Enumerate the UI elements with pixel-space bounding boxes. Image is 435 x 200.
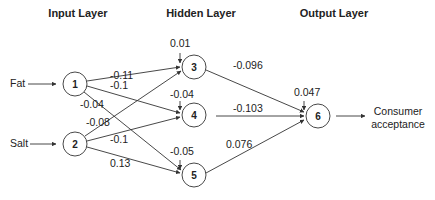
bias-4: -0.04 xyxy=(170,88,194,100)
weight-5-6: 0.076 xyxy=(226,138,252,150)
neural-network-diagram: Input Layer Hidden Layer Output Layer Fa… xyxy=(0,0,435,200)
bias-6: 0.047 xyxy=(294,86,320,98)
output-layer-title: Output Layer xyxy=(300,7,369,19)
weight-1-4: -0.1 xyxy=(110,79,128,91)
input-layer-title: Input Layer xyxy=(48,7,108,19)
node-4-label: 4 xyxy=(191,110,197,121)
bias-5: -0.05 xyxy=(170,145,194,157)
weight-2-4: -0.1 xyxy=(110,133,128,145)
output-label-line2: acceptance xyxy=(371,118,425,130)
node-3: 3 xyxy=(182,55,206,79)
node-2-label: 2 xyxy=(72,139,78,150)
input-fat-label: Fat xyxy=(10,77,25,89)
input-salt-label: Salt xyxy=(10,137,28,149)
node-5: 5 xyxy=(182,163,206,187)
hidden-layer-title: Hidden Layer xyxy=(166,7,236,19)
node-5-label: 5 xyxy=(191,170,197,181)
node-1-label: 1 xyxy=(72,79,78,90)
edge-2-5 xyxy=(87,147,180,173)
node-2: 2 xyxy=(63,132,87,156)
weight-1-5: -0.04 xyxy=(80,98,104,110)
node-6: 6 xyxy=(306,104,330,128)
bias-3: 0.01 xyxy=(170,37,191,49)
weight-2-5: 0.13 xyxy=(110,157,131,169)
edge-1-3 xyxy=(87,67,180,81)
weight-3-6: -0.096 xyxy=(233,59,263,71)
weight-4-6: -0.103 xyxy=(233,102,263,114)
node-6-label: 6 xyxy=(315,111,321,122)
node-4: 4 xyxy=(182,103,206,127)
edge-5-6 xyxy=(206,120,304,173)
node-3-label: 3 xyxy=(191,62,197,73)
node-1: 1 xyxy=(63,72,87,96)
output-label-line1: Consumer xyxy=(374,105,423,117)
weight-2-3: -0.08 xyxy=(86,116,110,128)
